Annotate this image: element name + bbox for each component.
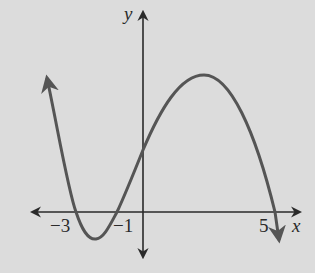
y-axis-label: y	[122, 3, 133, 24]
tick-label-neg3: −3	[50, 215, 70, 236]
polynomial-graph: y x −3 −1 5	[0, 0, 315, 273]
function-curve	[47, 75, 279, 240]
x-axis-label: x	[291, 215, 301, 236]
tick-label-5: 5	[259, 215, 269, 236]
tick-label-neg1: −1	[113, 215, 133, 236]
